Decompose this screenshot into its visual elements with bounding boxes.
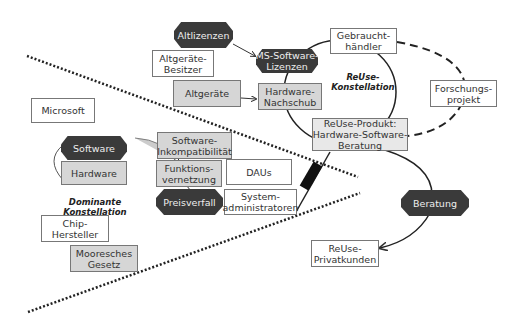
node-beratung: Beratung bbox=[401, 190, 469, 216]
node-forschungsprojekt: Forschungs- projekt bbox=[430, 80, 497, 107]
node-altgeraete: Altgeräte bbox=[173, 80, 241, 107]
node-daus: DAUs bbox=[226, 159, 292, 185]
node-software: Software bbox=[61, 136, 127, 160]
label-reuse-konstellation: ReUse- Konstellation bbox=[330, 72, 396, 92]
node-reuse-privatkunden: ReUse- Privatkunden bbox=[311, 240, 379, 267]
node-gebrauchthaendler: Gebraucht- händler bbox=[330, 28, 397, 54]
node-systemadministratoren: System- administratoren bbox=[224, 189, 297, 215]
node-ms-software-lizenzen: MS-Software- Lizenzen bbox=[256, 49, 318, 73]
node-chip-hersteller: Chip- Hersteller bbox=[41, 215, 109, 242]
label-dominante-konstellation: Dominante Konstellation bbox=[40, 197, 150, 217]
node-hardware-nachschub: Hardware- Nachschub bbox=[258, 83, 322, 110]
node-altlizenzen: Altlizenzen bbox=[174, 22, 233, 48]
node-mooresches-gesetz: Mooresches Gesetz bbox=[70, 245, 138, 272]
node-microsoft: Microsoft bbox=[31, 98, 95, 123]
node-hardware: Hardware bbox=[61, 161, 127, 185]
node-preisverfall: Preisverfall bbox=[156, 189, 223, 215]
node-altgeraete-besitzer: Altgeräte- Besitzer bbox=[152, 50, 214, 77]
node-reuse-produkt: ReUse-Produkt: Hardware-Software- Beratu… bbox=[312, 118, 408, 151]
node-funktionsvernetzung: Funktions- vernetzung bbox=[156, 160, 222, 187]
node-software-inkompatibilitaet: Software- Inkompatibilität bbox=[157, 132, 232, 159]
